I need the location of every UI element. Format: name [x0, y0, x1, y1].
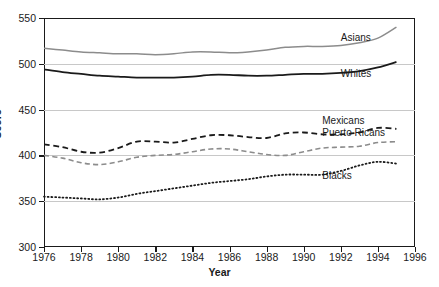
series-label-asians: Asians: [341, 32, 371, 43]
y-tick-mark-400: [39, 155, 44, 156]
x-tick-mark-1978: [81, 247, 82, 252]
x-tick-mark-1986: [230, 247, 231, 252]
x-tick-label-1996: 1996: [392, 251, 438, 263]
y-tick-label-450: 450: [0, 105, 36, 115]
y-tick-mark-500: [39, 64, 44, 65]
series-label-blacks: Blacks: [322, 170, 351, 181]
y-tick-mark-350: [39, 201, 44, 202]
x-tick-mark-1982: [155, 247, 156, 252]
gridline-400: [44, 155, 415, 156]
gridline-450: [44, 110, 415, 111]
gridline-500: [44, 64, 415, 65]
y-tick-label-350: 350: [0, 196, 36, 206]
x-tick-mark-1990: [304, 247, 305, 252]
y-tick-label-500: 500: [0, 59, 36, 69]
x-tick-mark-1976: [44, 247, 45, 252]
x-axis-title: Year: [0, 266, 439, 278]
x-tick-mark-1988: [267, 247, 268, 252]
y-tick-mark-450: [39, 110, 44, 111]
y-tick-mark-550: [39, 18, 44, 19]
x-tick-mark-1992: [341, 247, 342, 252]
x-tick-mark-1996: [415, 247, 416, 252]
y-axis-title: Score: [0, 109, 3, 138]
y-tick-label-400: 400: [0, 150, 36, 160]
x-tick-mark-1984: [192, 247, 193, 252]
series-label-whites: Whites: [341, 68, 372, 79]
gridline-350: [44, 201, 415, 202]
x-tick-mark-1994: [378, 247, 379, 252]
series-label-puerto-ricans: Puerto Ricans: [322, 127, 385, 138]
score-by-group-line-chart: 300350400450500550 197619781980198219841…: [0, 0, 439, 287]
series-label-mexicans: Mexicans: [322, 115, 364, 126]
y-tick-label-550: 550: [0, 13, 36, 23]
x-tick-mark-1980: [118, 247, 119, 252]
